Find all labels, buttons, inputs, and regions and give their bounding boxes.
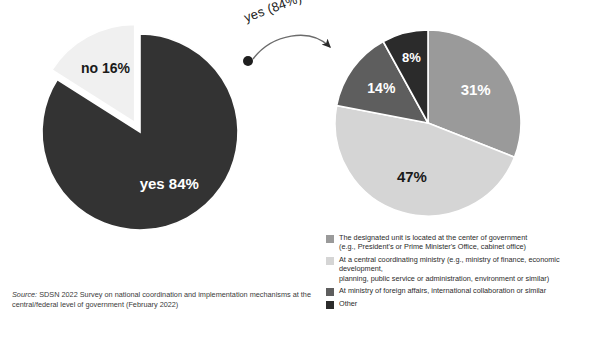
legend-item-label: At a central coordinating ministry (e.g.… [339, 255, 594, 283]
legend-swatch-icon [326, 288, 334, 296]
pie-slice-label: 8% [402, 50, 421, 65]
legend-item-label: Other [339, 299, 357, 308]
legend: The designated unit is located at the ce… [326, 233, 594, 312]
source-label: Source: [12, 290, 37, 299]
source-note: Source: SDSN 2022 Survey on national coo… [12, 290, 312, 310]
pie-slice [428, 30, 521, 157]
legend-swatch-icon [326, 235, 334, 243]
pie-slice-label: 14% [367, 80, 396, 96]
pie-slice-label: yes 84% [140, 175, 199, 192]
legend-item-label: At ministry of foreign affairs, internat… [339, 286, 546, 295]
legend-item[interactable]: Other [326, 299, 594, 309]
legend-item[interactable]: At ministry of foreign affairs, internat… [326, 286, 594, 296]
pie-slice-label: no 16% [81, 60, 131, 76]
annotation-label: yes (84%) [242, 0, 304, 25]
source-text: SDSN 2022 Survey on national coordinatio… [12, 290, 311, 309]
dot-marker-icon [243, 56, 253, 66]
legend-item[interactable]: The designated unit is located at the ce… [326, 233, 594, 252]
pie-slice [42, 34, 238, 230]
pie-slice [335, 106, 514, 216]
legend-item-label: The designated unit is located at the ce… [339, 233, 527, 252]
pie-slice [383, 30, 428, 123]
pie-slice [337, 42, 428, 123]
pie-slice [52, 24, 135, 122]
curved-arrow-icon [253, 35, 330, 59]
pie-slice-label: 47% [397, 168, 427, 185]
legend-item[interactable]: At a central coordinating ministry (e.g.… [326, 255, 594, 283]
legend-swatch-icon [326, 257, 334, 265]
figure-root: yes 84%no 16%31%47%14%8% yes (84%) The d… [0, 0, 598, 344]
legend-swatch-icon [326, 301, 334, 309]
pie-slice-label: 31% [461, 81, 491, 98]
